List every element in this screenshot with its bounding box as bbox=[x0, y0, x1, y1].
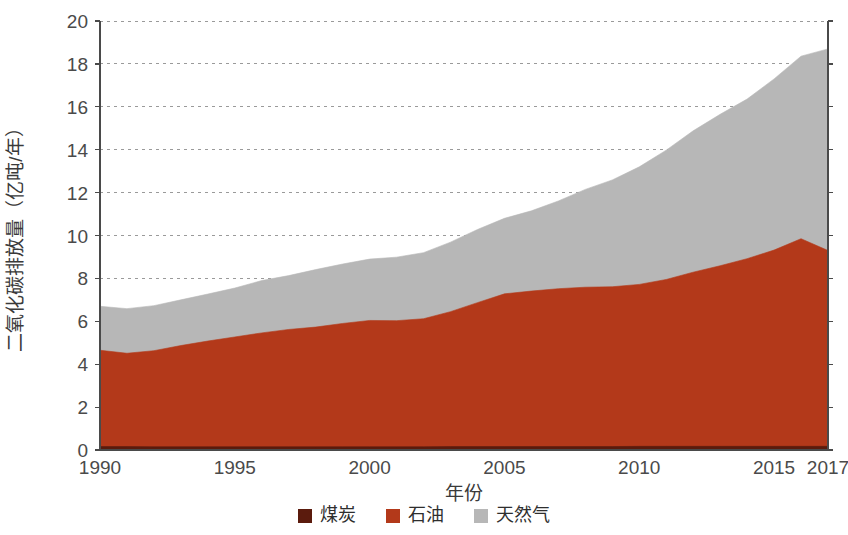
legend-group: 煤炭石油天然气 bbox=[298, 505, 550, 525]
y-tick-label-12: 12 bbox=[67, 183, 88, 204]
y-tick-label-18: 18 bbox=[67, 54, 88, 75]
legend-label-2: 天然气 bbox=[496, 505, 550, 525]
y-tick-label-16: 16 bbox=[67, 97, 88, 118]
x-tick-label-2000: 2000 bbox=[348, 457, 390, 478]
y-axis-title: 二氧化碳排放量（亿吨/年） bbox=[5, 118, 26, 351]
chart-canvas: 02468101214161820 1990199520002005201020… bbox=[0, 0, 848, 535]
x-tick-label-1990: 1990 bbox=[79, 457, 121, 478]
y-tick-label-4: 4 bbox=[77, 354, 88, 375]
area-series-group bbox=[100, 49, 828, 450]
y-tick-label-10: 10 bbox=[67, 226, 88, 247]
x-tick-label-2017: 2017 bbox=[807, 457, 848, 478]
legend-swatch-2 bbox=[474, 509, 488, 523]
legend-swatch-1 bbox=[386, 509, 400, 523]
legend-swatch-0 bbox=[298, 509, 312, 523]
legend-label-1: 石油 bbox=[408, 505, 444, 525]
x-tick-label-2010: 2010 bbox=[618, 457, 660, 478]
y-tick-label-6: 6 bbox=[77, 311, 88, 332]
x-tick-label-1995: 1995 bbox=[214, 457, 256, 478]
x-tick-labels-group: 1990199520002005201020152017 bbox=[79, 457, 848, 478]
y-tick-label-20: 20 bbox=[67, 11, 88, 32]
legend-label-0: 煤炭 bbox=[320, 505, 356, 525]
x-axis-title: 年份 bbox=[445, 483, 483, 504]
x-tick-label-2015: 2015 bbox=[753, 457, 795, 478]
y-tick-label-14: 14 bbox=[67, 140, 89, 161]
y-tick-label-8: 8 bbox=[77, 268, 88, 289]
stacked-area-chart: 02468101214161820 1990199520002005201020… bbox=[0, 0, 848, 535]
x-tick-label-2005: 2005 bbox=[483, 457, 525, 478]
y-tick-label-2: 2 bbox=[77, 397, 88, 418]
